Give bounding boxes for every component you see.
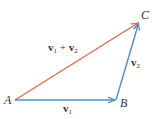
v1-label: v1 [63, 103, 72, 116]
sum-label: v1 + v2 [48, 42, 78, 55]
point-a-label: A [4, 94, 11, 106]
point-c-label: C [141, 9, 149, 21]
v2-label: v2 [131, 57, 140, 70]
vector-addition-diagram: A B C v1 v2 v1 + v2 [0, 0, 154, 119]
point-b-label: B [120, 97, 127, 109]
